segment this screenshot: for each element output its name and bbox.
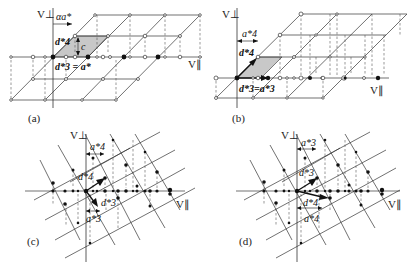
shaded-unit-cell-b xyxy=(237,57,282,78)
d4-star-label-c: d*4 xyxy=(78,171,93,182)
d3-star-label-d: d*3 xyxy=(299,167,314,178)
panel-a: V⊥ αa* d*4 c d*3 = a* V∥ (a) xyxy=(10,8,202,125)
d3-star-label-c: d*3 xyxy=(101,197,116,208)
panel-label-d: (d) xyxy=(239,235,252,248)
v-par-label-d: V∥ xyxy=(388,198,402,211)
v-perp-label-a: V⊥ xyxy=(37,8,55,20)
a4-star-label-c: a*4 xyxy=(90,141,105,152)
a4-star-label-d: a*4 xyxy=(304,213,319,224)
a4-star-label-b: a*4 xyxy=(242,28,257,39)
a3-star-label-d: a*3 xyxy=(301,137,316,148)
figure-canvas: V⊥ αa* d*4 c d*3 = a* V∥ (a) xyxy=(0,0,413,268)
v-par-label-b: V∥ xyxy=(370,84,384,97)
panel-label-b: (b) xyxy=(232,112,245,125)
lattice-points-a xyxy=(10,14,202,102)
panel-c: V⊥ a*4 d*4 d*3 a*3 V∥ (c) xyxy=(25,129,195,262)
v-par-label-c: V∥ xyxy=(176,198,190,211)
v-perp-label-c: V⊥ xyxy=(70,129,88,141)
d4-star-label-d: d*4 xyxy=(303,197,318,208)
alpha-a-star-label: αa* xyxy=(56,11,71,22)
panel-label-c: (c) xyxy=(27,235,40,248)
a3-star-label-c: a*3 xyxy=(86,213,101,224)
v-perp-label-d: V⊥ xyxy=(281,129,299,141)
d3-eq-label-a: d*3 = a* xyxy=(55,61,92,72)
projection-lines-a xyxy=(11,15,200,100)
d3-eq-label-b: d*3=a*3 xyxy=(239,83,275,94)
panel-b: V⊥ a*4 d*4 d*3=a*3 V∥ (b) xyxy=(214,8,407,125)
lattice-points-c xyxy=(51,139,172,245)
lattice-points-d xyxy=(262,139,384,245)
c-label: c xyxy=(81,41,86,52)
v-perp-label-b: V⊥ xyxy=(222,8,240,20)
v-par-label-a: V∥ xyxy=(188,58,202,71)
panel-label-a: (a) xyxy=(28,112,41,125)
d4-star-label-b: d*4 xyxy=(239,47,254,58)
d4-star-label-a: d*4 xyxy=(55,36,70,47)
panel-d: V⊥ a*3 d*3 d*4 a*4 V∥ (d) xyxy=(236,129,402,262)
